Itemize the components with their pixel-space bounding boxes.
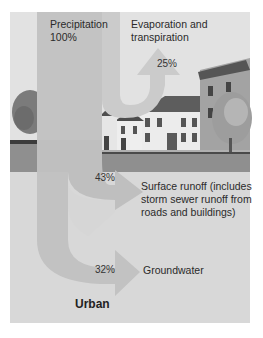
evaporation-label-line2: transpiration (131, 31, 189, 43)
groundwater-label: Groundwater (143, 264, 204, 276)
surface-runoff-label-line2: storm sewer runoff from (141, 193, 252, 205)
groundwater-percent: 32% (95, 264, 115, 276)
evaporation-label-line1: Evaporation and (131, 18, 207, 30)
diagram-canvas (0, 0, 263, 338)
evaporation-percent: 25% (157, 58, 177, 70)
precipitation-percent: 100% (50, 31, 77, 43)
diagram-title: Urban (75, 298, 110, 310)
surface-runoff-percent: 43% (95, 172, 115, 184)
surface-runoff-label-line1: Surface runoff (includes (141, 180, 252, 192)
precipitation-label: Precipitation (50, 18, 108, 30)
water-cycle-diagram: Precipitation 100% Evaporation and trans… (0, 0, 263, 338)
surface-runoff-label-line3: roads and buildings) (141, 206, 236, 218)
